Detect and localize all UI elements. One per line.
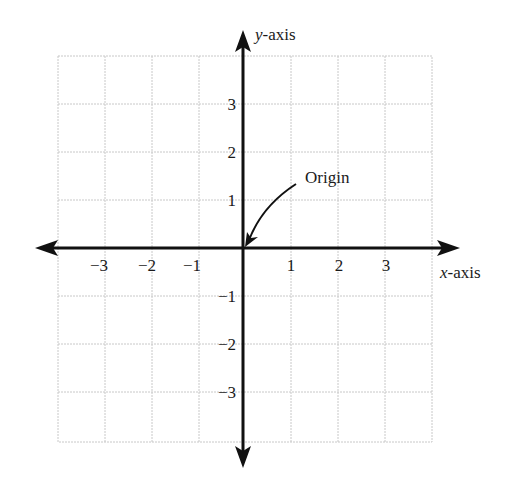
origin-pointer: [245, 184, 296, 247]
origin-label: Origin: [305, 168, 350, 187]
y-tick-label: −1: [218, 287, 236, 306]
y-axis-label-rest: -axis: [263, 25, 296, 44]
x-tick-label: −2: [138, 256, 156, 275]
x-tick-labels: −3 −2 −1 1 2 3: [90, 256, 390, 275]
y-tick-label: −3: [218, 383, 236, 402]
x-tick-label: 3: [382, 256, 391, 275]
x-axis-label: x-axis: [439, 263, 481, 282]
x-tick-label: −1: [183, 256, 201, 275]
x-tick-label: 1: [287, 256, 296, 275]
y-tick-label: 2: [228, 143, 237, 162]
coordinate-plane: −3 −2 −1 1 2 3 3 2 1 −1 −2 −3 y-axis x-a…: [0, 0, 525, 492]
x-tick-label: 2: [335, 256, 344, 275]
y-axis-label-var: y: [253, 25, 263, 44]
y-tick-label: 3: [228, 95, 237, 114]
x-axis-label-rest: -axis: [448, 263, 481, 282]
y-tick-label: 1: [228, 191, 237, 210]
y-tick-label: −2: [218, 335, 236, 354]
y-axis-label: y-axis: [253, 25, 296, 44]
x-tick-label: −3: [90, 256, 108, 275]
